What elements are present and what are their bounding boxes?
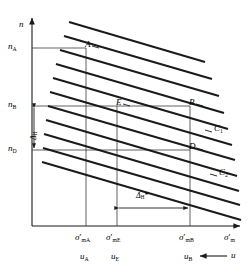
vertical-delta-base: Δ — [29, 135, 38, 140]
point-label-B: B — [189, 98, 195, 107]
vertical-delta-label: ΔH — [30, 132, 38, 140]
compression-line-family — [42, 22, 241, 220]
y-tick-sub-nA: A — [13, 46, 17, 52]
curve-sub-C2: 2 — [225, 172, 228, 178]
u-tick-sub-uB: B — [189, 256, 193, 262]
u-direction-label: u — [231, 251, 236, 260]
point-label-A: A — [85, 40, 91, 49]
u-tick-base-uB: u — [184, 251, 189, 261]
point-label-D: D — [189, 142, 196, 151]
y-tick-sub-nD: D — [13, 148, 17, 154]
y-axis-label: n — [19, 20, 24, 29]
x-tick-label-smA: σ′mA — [75, 233, 90, 242]
u-tick-base-uA: u — [80, 251, 85, 261]
u-tick-label-uA: uA — [80, 252, 89, 261]
horizontal-delta-star: * — [144, 191, 148, 200]
u-tick-label-uE: uE — [111, 252, 119, 261]
curve-label-C1: C1 — [214, 124, 223, 133]
y-tick-label-nA: nA — [8, 42, 17, 51]
u-tick-sub-uA: A — [85, 256, 89, 262]
compression-line — [42, 162, 241, 220]
leader-C2 — [210, 174, 217, 176]
compression-line — [50, 92, 232, 145]
y-tick-sub-nB: B — [13, 104, 17, 110]
u-tick-label-uB: uB — [184, 252, 192, 261]
y-tick-base-nA: n — [8, 41, 13, 51]
point-label-E: E — [116, 98, 122, 107]
x-axis-label-sub: m — [230, 237, 234, 243]
x-tick-sub-smE: mE — [112, 237, 120, 243]
x-tick-sub-smB: mB — [185, 237, 193, 243]
y-tick-base-nB: n — [8, 99, 13, 109]
y-tick-label-nD: nD — [8, 144, 17, 153]
compression-line — [46, 120, 237, 176]
vertical-delta-sub: H — [32, 132, 38, 136]
diagram-figure: n σ′m nA nB nD σ′mA σ′mE σ′mB uA uE uB u… — [0, 0, 252, 269]
curve-sub-C1: 1 — [220, 128, 223, 134]
x-axis-label: σ′m — [224, 233, 235, 242]
curve-label-C2: C2 — [219, 168, 228, 177]
y-tick-label-nB: nB — [8, 100, 16, 109]
x-tick-label-smE: σ′mE — [106, 233, 120, 242]
horizontal-delta-sub: H — [141, 194, 145, 200]
u-tick-sub-uE: E — [116, 256, 120, 262]
y-tick-base-nD: n — [8, 143, 13, 153]
x-tick-label-smB: σ′mB — [179, 233, 194, 242]
compression-line — [53, 78, 228, 129]
compression-line — [44, 134, 239, 191]
horizontal-delta-label: ΔH* — [136, 192, 148, 200]
x-tick-sub-smA: mA — [81, 237, 90, 243]
u-tick-base-uE: u — [111, 251, 116, 261]
leader-C1 — [205, 130, 212, 132]
compression-line — [48, 106, 235, 160]
horizontal-delta-base: Δ — [136, 191, 141, 200]
level-lines — [32, 48, 190, 150]
